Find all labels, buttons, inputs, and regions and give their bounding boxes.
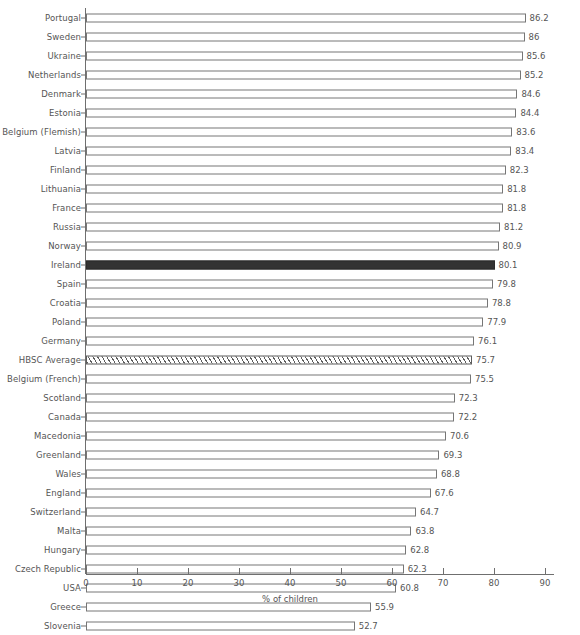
bar-value-label: 83.6 (516, 127, 535, 137)
bar-value-label: 86.2 (530, 13, 549, 23)
category-label: Spain (57, 279, 81, 289)
bar[interactable] (86, 70, 521, 79)
category-label: Switzerland (30, 507, 81, 517)
bar[interactable] (86, 51, 523, 60)
bar-value-label: 52.7 (359, 621, 378, 631)
category-label: Ukraine (47, 51, 81, 61)
bar-value-label: 79.8 (497, 279, 516, 289)
chart-row: Denmark84.6 (0, 84, 580, 103)
bar[interactable] (86, 222, 500, 231)
bar[interactable] (86, 336, 474, 345)
category-label: France (52, 203, 81, 213)
bar-value-label: 82.3 (510, 165, 529, 175)
category-label: Portugal (45, 13, 81, 23)
bar-value-label: 81.2 (504, 222, 523, 232)
bar[interactable] (86, 241, 499, 250)
bar-value-label: 70.6 (450, 431, 469, 441)
chart-row: HBSC Average75.7 (0, 350, 580, 369)
bar-value-label: 81.8 (507, 184, 526, 194)
bar-value-label: 78.8 (492, 298, 511, 308)
category-label: Denmark (41, 89, 81, 99)
bar[interactable] (86, 488, 431, 497)
chart-row: Ukraine85.6 (0, 46, 580, 65)
bar[interactable] (86, 374, 471, 383)
bar[interactable] (86, 621, 355, 630)
chart-row: Lithuania81.8 (0, 179, 580, 198)
chart-row: Belgium (French)75.5 (0, 369, 580, 388)
x-axis-tick-label: 50 (336, 578, 347, 588)
bar[interactable] (86, 450, 439, 459)
bar[interactable] (86, 127, 512, 136)
x-axis-tick (545, 568, 546, 574)
bar[interactable] (86, 526, 411, 535)
category-label: Latvia (55, 146, 81, 156)
bar[interactable] (86, 279, 493, 288)
bar[interactable] (86, 393, 455, 402)
bar[interactable] (86, 108, 516, 117)
category-label: Hungary (44, 545, 81, 555)
bar[interactable] (86, 317, 483, 326)
category-label: Croatia (50, 298, 81, 308)
x-axis-tick (86, 568, 87, 574)
category-label: Poland (52, 317, 81, 327)
bar-value-label: 81.8 (507, 203, 526, 213)
bar[interactable] (86, 146, 511, 155)
bar[interactable] (86, 412, 454, 421)
category-label: Estonia (49, 108, 81, 118)
bar[interactable] (86, 355, 472, 364)
bar[interactable] (86, 260, 495, 269)
category-label: Sweden (47, 32, 81, 42)
chart-row: Germany76.1 (0, 331, 580, 350)
bar-value-label: 75.7 (476, 355, 495, 365)
chart-row: Scotland72.3 (0, 388, 580, 407)
chart-row: Sweden86 (0, 27, 580, 46)
x-axis-tick-label: 30 (234, 578, 245, 588)
chart-row: Croatia78.8 (0, 293, 580, 312)
category-label: Wales (55, 469, 81, 479)
bar-value-label: 68.8 (441, 469, 460, 479)
bar-value-label: 72.2 (458, 412, 477, 422)
category-label: Belgium (Flemish) (2, 127, 81, 137)
category-label: Greenland (36, 450, 81, 460)
bar[interactable] (86, 545, 406, 554)
category-label: Netherlands (28, 70, 81, 80)
bar[interactable] (86, 165, 506, 174)
x-axis-title: % of children (0, 594, 580, 604)
bar[interactable] (86, 184, 503, 193)
x-axis-tick (392, 568, 393, 574)
x-axis-tick (443, 568, 444, 574)
category-label: Czech Republic (15, 564, 81, 574)
bar[interactable] (86, 564, 404, 573)
bar[interactable] (86, 431, 446, 440)
bar-value-label: 80.9 (503, 241, 522, 251)
bar-value-label: 64.7 (420, 507, 439, 517)
bar[interactable] (86, 469, 437, 478)
chart-row: Spain79.8 (0, 274, 580, 293)
category-label: Norway (48, 241, 81, 251)
category-label: Germany (41, 336, 81, 346)
x-axis-tick-label: 20 (183, 578, 194, 588)
category-label: Scotland (43, 393, 81, 403)
bar[interactable] (86, 32, 525, 41)
bar[interactable] (86, 203, 503, 212)
chart-row: Ireland80.1 (0, 255, 580, 274)
x-axis-tick-label: 80 (489, 578, 500, 588)
chart-row: Netherlands85.2 (0, 65, 580, 84)
bar-value-label: 77.9 (487, 317, 506, 327)
chart-row: Finland82.3 (0, 160, 580, 179)
x-axis-tick-label: 60 (387, 578, 398, 588)
bar-value-label: 67.6 (435, 488, 454, 498)
category-label: Canada (48, 412, 81, 422)
x-axis-tick-label: 90 (540, 578, 551, 588)
bar[interactable] (86, 507, 416, 516)
bar[interactable] (86, 298, 488, 307)
bar-value-label: 76.1 (478, 336, 497, 346)
bar-value-label: 62.8 (410, 545, 429, 555)
bar-value-label: 84.4 (520, 108, 539, 118)
chart-row: Malta63.8 (0, 521, 580, 540)
bar[interactable] (86, 13, 526, 22)
chart-row: Latvia83.4 (0, 141, 580, 160)
chart-row: England67.6 (0, 483, 580, 502)
bar[interactable] (86, 89, 517, 98)
